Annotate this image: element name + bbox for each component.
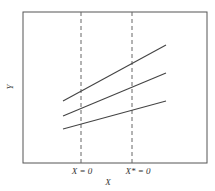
- chart: X = 0 X* = 0 X Y: [0, 0, 215, 191]
- x-axis-label: X: [104, 177, 111, 187]
- middle-line: [63, 73, 166, 116]
- upper-line: [63, 45, 166, 101]
- reference-label-x0: X = 0: [71, 166, 93, 176]
- plot-frame: [23, 12, 207, 163]
- lower-line: [63, 101, 166, 129]
- y-axis-label: Y: [5, 84, 15, 90]
- reference-label-xstar0: X* = 0: [124, 166, 151, 176]
